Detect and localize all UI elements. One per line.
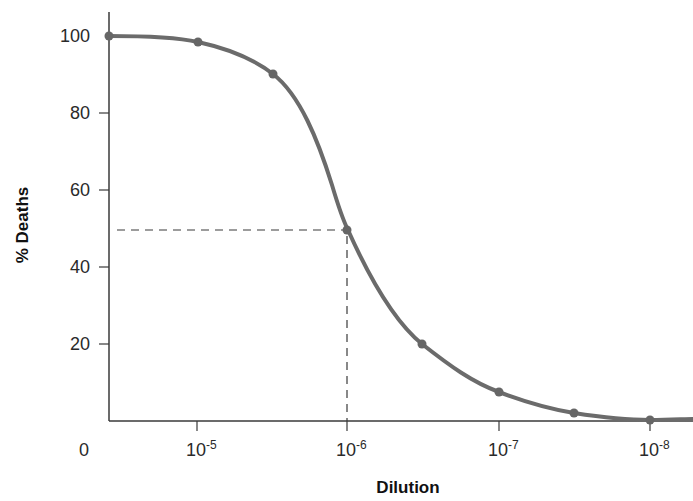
dose-response-curve	[109, 36, 693, 420]
x-tick-label-1e-6: 10-6	[336, 438, 367, 460]
y-tick-label-60: 60	[70, 180, 90, 200]
data-point	[105, 32, 114, 41]
data-point	[194, 38, 203, 47]
data-point	[646, 416, 655, 425]
y-tick-label-40: 40	[70, 257, 90, 277]
data-points	[105, 32, 655, 425]
y-tick-label-20: 20	[70, 334, 90, 354]
x-axis-title: Dilution	[376, 478, 439, 497]
y-axis-title: % Deaths	[13, 187, 32, 264]
x-tick-label-0: 0	[79, 440, 89, 460]
x-tick-label-1e-8: 10-8	[639, 438, 670, 460]
data-point	[343, 226, 352, 235]
y-tick-label-80: 80	[70, 103, 90, 123]
data-point	[269, 70, 278, 79]
x-tick-label-1e-7: 10-7	[488, 438, 519, 460]
data-point	[495, 388, 504, 397]
y-tick-label-100: 100	[60, 26, 90, 46]
x-tick-label-1e-5: 10-5	[186, 438, 217, 460]
y-ticks	[99, 113, 109, 344]
x-ticks	[197, 421, 650, 431]
data-point	[570, 409, 579, 418]
chart: 100 80 60 40 20 0 10-5 10-6 10-7 10-8 Di…	[0, 0, 693, 501]
data-point	[418, 340, 427, 349]
